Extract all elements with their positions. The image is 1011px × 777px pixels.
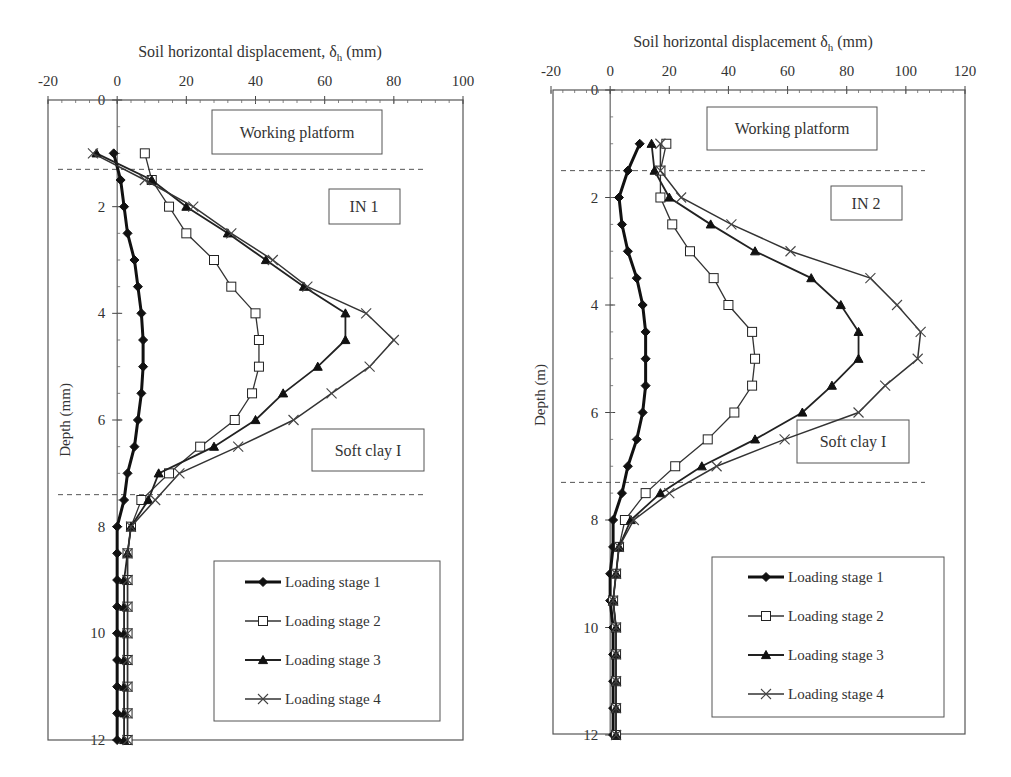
legend-right: Loading stage 1Loading stage 2Loading st… [712, 557, 944, 717]
annotation-soft-clay-left: Soft clay I [312, 429, 424, 471]
annotation-working-platform-left: Working platform [212, 110, 382, 154]
x-tick-label: 60 [317, 73, 332, 89]
x-tick-label: 40 [248, 73, 263, 89]
y-tick-label: 2 [591, 190, 599, 206]
svg-text:Working platform: Working platform [240, 124, 355, 142]
y-axis-title-left: Depth (mm) [57, 383, 74, 457]
svg-text:Soft clay I: Soft clay I [335, 442, 402, 460]
figure: Soil horizontal displacement, δh (mm) -2… [0, 0, 1011, 777]
svg-text:Loading stage 1: Loading stage 1 [788, 569, 884, 585]
x-tick-label: 20 [662, 63, 677, 79]
x-tick-label: 80 [386, 73, 401, 89]
y-tick-label: 12 [583, 727, 598, 743]
svg-text:Loading stage 4: Loading stage 4 [285, 691, 381, 707]
x-tick-label: 60 [780, 63, 795, 79]
svg-text:Loading stage 2: Loading stage 2 [788, 608, 884, 624]
svg-text:IN 2: IN 2 [852, 195, 881, 212]
y-tick-label: 6 [591, 405, 599, 421]
x-tick-label: 20 [179, 73, 194, 89]
legend-left: Loading stage 1Loading stage 2Loading st… [214, 561, 440, 721]
annotation-in1: IN 1 [329, 189, 400, 224]
chart-in2: Soil horizontal displacement δh (mm) -20… [532, 33, 976, 743]
svg-text:Soft clay I: Soft clay I [820, 433, 887, 451]
x-tick-labels-right: -20020406080100120 [541, 63, 976, 79]
svg-text:Loading stage 1: Loading stage 1 [285, 574, 381, 590]
x-axis-title-left: Soil horizontal displacement, δh (mm) [138, 43, 382, 63]
y-tick-label: 2 [98, 199, 106, 215]
svg-text:Working platform: Working platform [735, 120, 850, 138]
x-axis-title-right: Soil horizontal displacement δh (mm) [633, 33, 873, 53]
annotation-in2: IN 2 [831, 186, 902, 220]
y-axis-title-right: Depth (m) [532, 364, 549, 426]
y-tick-labels-right: 024681012 [583, 82, 599, 743]
y-tick-label: 10 [583, 620, 598, 636]
svg-text:Loading stage 4: Loading stage 4 [788, 686, 884, 702]
y-tick-label: 8 [591, 512, 599, 528]
x-tick-label: 0 [606, 63, 614, 79]
y-tick-labels-left: 024681012 [90, 92, 106, 748]
x-tick-label: 80 [839, 63, 854, 79]
chart-in1: Soil horizontal displacement, δh (mm) -2… [38, 43, 474, 748]
y-tick-label: 4 [98, 305, 106, 321]
y-tick-label: 8 [98, 519, 106, 535]
y-tick-label: 4 [591, 297, 599, 313]
svg-text:Loading stage 3: Loading stage 3 [285, 652, 381, 668]
svg-text:Loading stage 3: Loading stage 3 [788, 647, 884, 663]
x-tick-label: 40 [721, 63, 736, 79]
annotation-working-platform-right: Working platform [707, 107, 877, 150]
x-tick-label: 120 [954, 63, 977, 79]
x-tick-labels-left: -20020406080100 [38, 73, 474, 89]
svg-text:Loading stage 2: Loading stage 2 [285, 613, 381, 629]
y-tick-label: 6 [98, 412, 106, 428]
annotation-soft-clay-right: Soft clay I [797, 420, 909, 463]
x-tick-label: 100 [452, 73, 475, 89]
x-tick-label: 100 [895, 63, 918, 79]
y-tick-label: 10 [90, 625, 105, 641]
x-tick-label: -20 [38, 73, 58, 89]
x-tick-label: 0 [113, 73, 121, 89]
x-tick-label: -20 [541, 63, 561, 79]
svg-text:IN 1: IN 1 [350, 198, 379, 215]
